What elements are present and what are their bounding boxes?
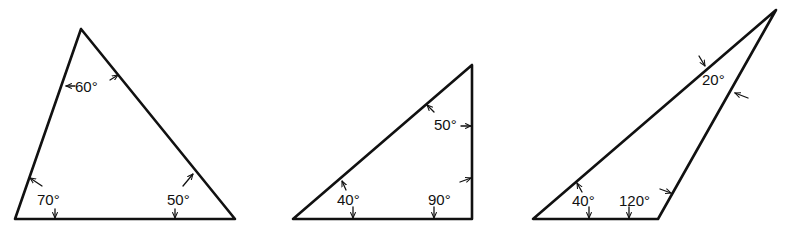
angle-label: 60°: [75, 78, 98, 95]
angle-marker-top: 50°: [427, 105, 471, 133]
angle-marker-top: 60°: [66, 75, 118, 95]
angle-label: 20°: [702, 71, 725, 88]
angle-marker-bottom-right: 120°: [619, 189, 671, 218]
angle-label: 50°: [434, 116, 457, 133]
angle-label: 40°: [572, 192, 595, 209]
angle-marker-bottom-right: 50°: [167, 174, 193, 218]
angle-label: 90°: [428, 191, 451, 208]
angle-marker-bottom-left: 40°: [337, 181, 360, 218]
triangles-svg: 60° 70° 50° 50° 4: [0, 0, 795, 241]
angle-label: 120°: [619, 192, 650, 209]
right-triangle: 50° 40° 90°: [293, 65, 472, 219]
angle-marker-bottom-right: 90°: [428, 178, 471, 218]
angle-marker-bottom-left: 70°: [30, 178, 60, 218]
angle-label: 40°: [337, 191, 360, 208]
acute-triangle: 60° 70° 50°: [15, 29, 235, 219]
angle-label: 70°: [37, 191, 60, 208]
triangle-outline: [533, 10, 776, 219]
angle-label: 50°: [167, 191, 190, 208]
triangles-figure: 60° 70° 50° 50° 4: [0, 0, 795, 241]
angle-marker-bottom-left: 40°: [572, 183, 595, 218]
angle-marker-top: 20°: [699, 56, 748, 98]
obtuse-triangle: 20° 40° 120°: [533, 10, 776, 219]
